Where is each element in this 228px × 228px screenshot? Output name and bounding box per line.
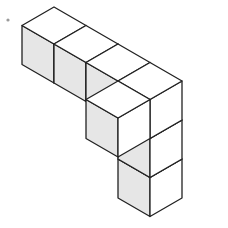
cubes-group (22, 7, 182, 217)
cube-figure (0, 0, 228, 228)
isometric-cubes-diagram (0, 0, 228, 228)
stray-dot (6, 18, 9, 21)
